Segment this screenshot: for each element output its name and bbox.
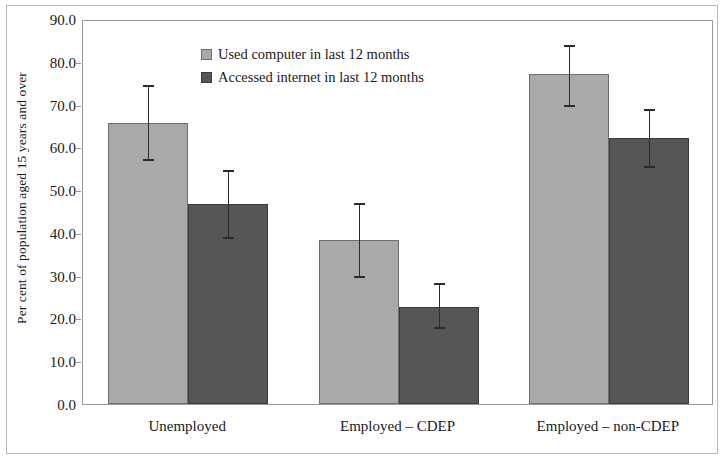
y-axis-tick-label: 80.0 — [24, 55, 76, 70]
y-axis-tick-label: 10.0 — [24, 355, 76, 370]
error-bar-cap — [434, 283, 445, 285]
y-axis-tick-label: 50.0 — [24, 184, 76, 199]
plot-area: Used computer in last 12 months Accessed… — [82, 20, 713, 405]
error-bar-cap — [223, 237, 234, 239]
y-axis-tick-label: 40.0 — [24, 226, 76, 241]
error-bar — [228, 171, 229, 238]
x-axis-category-label: Unemployed — [82, 418, 292, 435]
y-axis-tick-mark — [76, 362, 81, 363]
y-axis-tick-mark — [76, 63, 81, 64]
legend-swatch-icon — [201, 49, 212, 60]
bar — [529, 74, 609, 404]
y-axis-tick-mark — [76, 106, 81, 107]
error-bar — [148, 86, 149, 160]
x-axis-category-label: Employed – CDEP — [292, 418, 502, 435]
legend-item-label: Used computer in last 12 months — [218, 46, 409, 63]
error-bar — [359, 204, 360, 277]
figure-bar-chart: Per cent of population aged 15 years and… — [0, 0, 724, 459]
y-axis-ticks: 0.010.020.030.040.050.060.070.080.090.0 — [20, 20, 76, 405]
error-bar-cap — [644, 109, 655, 111]
y-axis-tick-mark — [76, 234, 81, 235]
error-bar-cap — [143, 159, 154, 161]
error-bar-cap — [223, 170, 234, 172]
legend-item-label: Accessed internet in last 12 months — [218, 69, 424, 86]
error-bar-cap — [564, 45, 575, 47]
y-axis-tick-mark — [76, 319, 81, 320]
error-bar-cap — [354, 276, 365, 278]
legend-item: Used computer in last 12 months — [201, 43, 424, 66]
error-bar — [439, 284, 440, 328]
y-axis-tick-label: 30.0 — [24, 269, 76, 284]
legend-swatch-icon — [201, 72, 212, 83]
y-axis-tick-label: 90.0 — [24, 13, 76, 28]
error-bar — [569, 46, 570, 106]
legend-item: Accessed internet in last 12 months — [201, 66, 424, 89]
legend: Used computer in last 12 months Accessed… — [201, 43, 424, 89]
y-axis-tick-mark — [76, 148, 81, 149]
y-axis-tick-mark — [76, 277, 81, 278]
error-bar-cap — [434, 327, 445, 329]
bar — [108, 123, 188, 404]
y-axis-tick-label: 60.0 — [24, 141, 76, 156]
x-axis-category-label: Employed – non-CDEP — [503, 418, 713, 435]
error-bar-cap — [354, 203, 365, 205]
y-axis-tick-label: 20.0 — [24, 312, 76, 327]
bar — [609, 138, 689, 404]
y-axis-tick-label: 0.0 — [24, 398, 76, 413]
error-bar-cap — [644, 166, 655, 168]
y-axis-tick-label: 70.0 — [24, 98, 76, 113]
error-bar-cap — [564, 105, 575, 107]
error-bar — [649, 110, 650, 167]
error-bar-cap — [143, 85, 154, 87]
y-axis-tick-mark — [76, 191, 81, 192]
